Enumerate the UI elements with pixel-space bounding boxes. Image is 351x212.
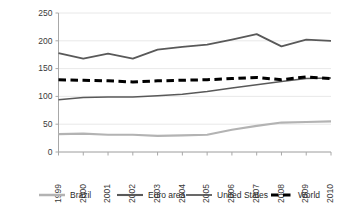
x-tick-label: 2008 [276, 184, 286, 203]
y-tick-label: 150 [38, 63, 52, 73]
y-tick-label: 0 [48, 147, 53, 157]
x-tick-label: 1999 [53, 184, 63, 203]
y-tick-label: 200 [38, 36, 52, 46]
legend-label-world: World [298, 190, 320, 200]
x-tick-label: 2010 [325, 184, 335, 203]
legend-label-euro-area: Euro area [148, 190, 186, 200]
y-axis-tick-labels: 050100150200250 [38, 8, 52, 157]
line-chart: 050100150200250 199920002001200220032004… [0, 0, 351, 212]
legend-label-united-states: United States [217, 190, 268, 200]
y-tick-label: 250 [38, 8, 52, 18]
gridlines [59, 13, 332, 152]
x-tick-label: 2001 [102, 184, 112, 203]
data-series-group [59, 34, 332, 136]
legend-label-brazil: Brazil [70, 190, 91, 200]
x-axis-tick-labels: 1999200020012002200320042005200620072008… [53, 184, 336, 203]
y-tick-label: 100 [38, 91, 52, 101]
series-line-euro-area [59, 34, 332, 58]
series-line-world [59, 77, 332, 82]
chart-canvas: 050100150200250 199920002001200220032004… [0, 0, 351, 212]
y-tick-label: 50 [43, 119, 53, 129]
x-tick-label: 2002 [127, 184, 137, 203]
series-line-brazil [59, 121, 332, 135]
x-tick-label: 2005 [201, 184, 211, 203]
